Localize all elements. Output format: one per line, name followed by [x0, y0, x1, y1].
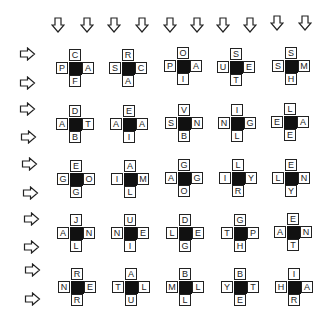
cell-top[interactable]: D [69, 105, 81, 117]
cell-right[interactable]: A [82, 62, 94, 74]
cell-bottom[interactable]: E [234, 294, 246, 306]
cell-bottom[interactable]: L [124, 186, 136, 198]
cell-top[interactable]: V [178, 104, 190, 116]
cell-left[interactable]: N [218, 117, 230, 129]
cell-top[interactable]: G [178, 159, 190, 171]
cell-bottom[interactable]: Y [285, 185, 297, 197]
cell-top[interactable]: A [125, 268, 137, 280]
cell-left[interactable]: U [217, 61, 229, 73]
cell-right[interactable]: E [137, 227, 149, 239]
cell-left[interactable]: L [166, 227, 178, 239]
cell-right[interactable]: N [300, 226, 312, 238]
cell-top[interactable]: J [70, 214, 82, 226]
cell-bottom[interactable]: T [287, 239, 299, 251]
cell-right[interactable]: T [82, 118, 94, 130]
cell-right[interactable]: O [83, 173, 95, 185]
cell-top[interactable]: L [232, 159, 244, 171]
cell-right[interactable]: C [135, 62, 147, 74]
cell-left[interactable]: N [58, 281, 70, 293]
cell-left[interactable]: H [275, 281, 287, 293]
cell-left[interactable]: A [274, 226, 286, 238]
cell-top[interactable]: G [234, 214, 246, 226]
cell-right[interactable]: A [297, 116, 309, 128]
cell-left[interactable]: A [165, 172, 177, 184]
cell-right[interactable]: M [137, 173, 149, 185]
cell-left[interactable]: A [57, 227, 69, 239]
cell-right[interactable]: N [191, 117, 203, 129]
cell-right[interactable]: L [192, 281, 204, 293]
cell-left[interactable]: T [221, 227, 233, 239]
cell-bottom[interactable]: A [122, 75, 134, 87]
cell-top[interactable]: R [122, 49, 134, 61]
cell-left[interactable]: A [110, 118, 122, 130]
cell-right[interactable]: E [84, 281, 96, 293]
cell-top[interactable]: I [231, 104, 243, 116]
cell-top[interactable]: I [288, 268, 300, 280]
cell-top[interactable]: R [71, 268, 83, 280]
cell-top[interactable]: S [230, 48, 242, 60]
cell-bottom[interactable]: B [178, 130, 190, 142]
cell-left[interactable]: E [271, 116, 283, 128]
cell-bottom[interactable]: B [69, 131, 81, 143]
cell-bottom[interactable]: I [123, 131, 135, 143]
cell-bottom[interactable]: G [70, 186, 82, 198]
cell-left[interactable]: G [57, 173, 69, 185]
cell-bottom[interactable]: L [179, 294, 191, 306]
cell-bottom[interactable]: T [230, 74, 242, 86]
cell-top[interactable]: C [69, 49, 81, 61]
cell-left[interactable]: I [219, 172, 231, 184]
cell-top[interactable]: E [287, 213, 299, 225]
cell-right[interactable]: G [191, 172, 203, 184]
cell-top[interactable]: S [285, 47, 297, 59]
cell-right[interactable]: E [192, 227, 204, 239]
cell-right[interactable]: A [190, 60, 202, 72]
cell-left[interactable]: P [164, 60, 176, 72]
cell-right[interactable]: Y [245, 172, 257, 184]
cell-left[interactable]: S [272, 60, 284, 72]
cell-left[interactable]: L [272, 172, 284, 184]
cell-right[interactable]: T [247, 281, 259, 293]
cell-bottom[interactable]: F [69, 75, 81, 87]
cell-bottom[interactable]: E [284, 129, 296, 141]
cell-left[interactable]: P [56, 62, 68, 74]
cell-bottom[interactable]: L [70, 240, 82, 252]
cell-top[interactable]: E [123, 105, 135, 117]
cell-top[interactable]: L [284, 103, 296, 115]
cell-bottom[interactable]: H [234, 240, 246, 252]
cell-left[interactable]: N [111, 227, 123, 239]
cell-right[interactable]: P [247, 227, 259, 239]
cell-top[interactable]: E [70, 160, 82, 172]
cell-bottom[interactable]: U [125, 294, 137, 306]
cell-top[interactable]: O [177, 47, 189, 59]
cell-bottom[interactable]: R [71, 294, 83, 306]
cell-left[interactable]: A [56, 118, 68, 130]
cell-left[interactable]: I [111, 173, 123, 185]
cell-right[interactable]: E [243, 61, 255, 73]
cell-right[interactable]: G [244, 117, 256, 129]
cell-left[interactable]: Y [221, 281, 233, 293]
cell-right[interactable]: M [298, 60, 310, 72]
cell-top[interactable]: A [124, 160, 136, 172]
cell-right[interactable]: A [136, 118, 148, 130]
cell-right[interactable]: N [83, 227, 95, 239]
cell-bottom[interactable]: I [124, 240, 136, 252]
cell-top[interactable]: E [285, 159, 297, 171]
cell-left[interactable]: S [109, 62, 121, 74]
cell-right[interactable]: A [301, 281, 313, 293]
cell-right[interactable]: L [138, 281, 150, 293]
cell-bottom[interactable]: I [177, 73, 189, 85]
cell-top[interactable]: B [179, 268, 191, 280]
cell-left[interactable]: S [165, 117, 177, 129]
cell-top[interactable]: U [124, 214, 136, 226]
cell-bottom[interactable]: O [178, 185, 190, 197]
cell-top[interactable]: B [234, 268, 246, 280]
cell-right[interactable]: N [298, 172, 310, 184]
cell-bottom[interactable]: R [288, 294, 300, 306]
cell-left[interactable]: T [112, 281, 124, 293]
cell-bottom[interactable]: H [285, 73, 297, 85]
cell-bottom[interactable]: L [231, 130, 243, 142]
cell-bottom[interactable]: G [179, 240, 191, 252]
cell-bottom[interactable]: R [232, 185, 244, 197]
cell-top[interactable]: D [179, 214, 191, 226]
cell-left[interactable]: M [166, 281, 178, 293]
